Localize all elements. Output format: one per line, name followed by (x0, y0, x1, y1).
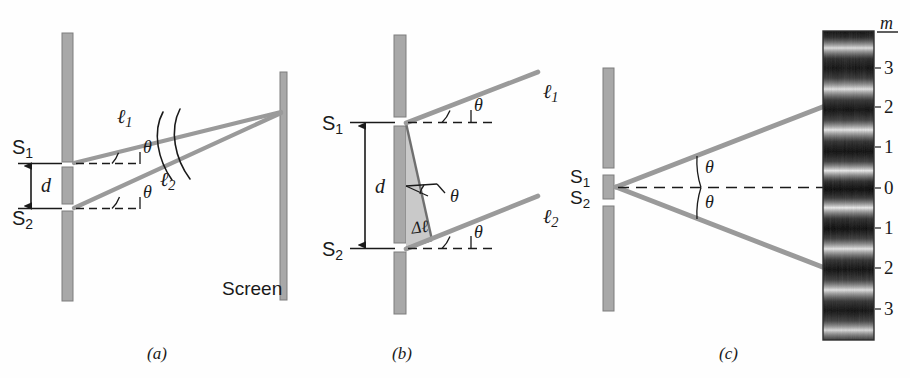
barrier-segment-middle (62, 167, 73, 204)
panel-b-label-s2: S2 (322, 238, 343, 263)
panel-c-rays (616, 106, 825, 268)
panel-b-label-d: d (375, 175, 385, 198)
barrier-segment-upper (394, 35, 406, 117)
ray-l1 (406, 72, 538, 123)
panel-c-label-order-axis: m (880, 13, 893, 34)
barrier-segment-lower (394, 252, 406, 314)
panel-a-label-d: d (41, 174, 51, 197)
panel-c-order-label-1: 2 (884, 96, 894, 118)
panel-b-separation-indicator (350, 123, 395, 249)
panel-c-order-label-0: 3 (884, 57, 894, 79)
panel-a (18, 33, 287, 301)
panel-c-label-theta-lower: θ (705, 192, 714, 213)
panel-b-label-theta-top: θ (474, 95, 483, 116)
barrier-segment-lower (62, 211, 73, 301)
panel-a-label-l1: ℓ1 (117, 105, 133, 131)
panel-a-label-s1: S1 (12, 136, 33, 161)
panel-c (603, 31, 898, 340)
ray-lower (616, 187, 825, 268)
barrier-segment-lower (603, 206, 614, 311)
panel-a-label-s2: S2 (12, 207, 33, 232)
panel-c-label-s2: S2 (570, 187, 590, 211)
panel-c-order-ticks (875, 68, 881, 309)
ray-upper (616, 106, 825, 187)
panel-a-label-screen: Screen (222, 278, 282, 300)
panel-c-label-theta-upper: θ (705, 157, 714, 178)
panel-b-label-s1: S1 (322, 112, 343, 137)
panel-a-rays (74, 112, 281, 208)
panel-a-label-theta-bottom: θ (143, 182, 152, 203)
panel-b-label-theta-mid: θ (450, 186, 459, 207)
barrier-segment-middle (603, 175, 614, 199)
panel-a-barrier (62, 33, 73, 301)
panel-b-label-l2-sub: 2 (551, 214, 558, 230)
panel-a-label-l1-sub: 1 (125, 114, 132, 130)
panel-c-order-label-4: 1 (884, 217, 894, 239)
angle-arc-lower (697, 188, 701, 220)
panel-c-caption: (c) (719, 344, 738, 364)
panel-c-barrier (603, 68, 614, 311)
panel-a-label-s2-sub: 2 (25, 216, 33, 232)
panel-b-label-s1-sub: 1 (335, 121, 343, 137)
barrier-segment-upper (603, 68, 614, 168)
panel-b-label-theta-bottom: θ (474, 222, 483, 243)
panel-b-label-path-difference: Δℓ (410, 217, 430, 239)
barrier-segment-upper (62, 33, 73, 162)
panel-c-fringe-pattern (823, 31, 874, 340)
double-slit-figure: S1 S2 d ℓ1 ℓ2 θ θ Screen (a) S1 S2 d ℓ1 … (0, 0, 910, 378)
barrier-segment-middle (394, 126, 406, 243)
interior-angle-leader (437, 184, 445, 193)
panel-c-order-label-3: 0 (884, 177, 894, 199)
panel-c-label-s2-sub: 2 (583, 196, 590, 211)
panel-a-label-s1-sub: 1 (25, 145, 33, 161)
panel-c-order-label-5: 2 (884, 257, 894, 279)
fringe-image (823, 31, 874, 340)
panel-b-caption: (b) (392, 344, 412, 364)
ray-l2 (74, 113, 281, 208)
panel-a-screen (280, 72, 287, 300)
panel-a-separation-indicator (18, 164, 62, 209)
panel-b-label-s2-sub: 2 (335, 247, 343, 263)
angle-arc-bottom (112, 197, 120, 209)
panel-c-order-label-6: 3 (884, 298, 894, 320)
panel-b-barrier (394, 35, 406, 314)
angle-arc-bottom (442, 237, 450, 249)
panel-a-label-l2-sub: 2 (168, 177, 175, 193)
panel-b-label-l2: ℓ2 (543, 205, 559, 231)
angle-arc-top (442, 111, 450, 123)
angle-arc-upper (697, 156, 701, 188)
panel-a-caption: (a) (147, 344, 167, 364)
panel-a-label-l2: ℓ2 (160, 168, 176, 194)
break-arc-right (174, 109, 190, 179)
panel-c-order-label-2: 1 (884, 136, 894, 158)
panel-b-label-l1: ℓ1 (543, 80, 559, 106)
panel-a-label-theta-top: θ (143, 137, 152, 158)
panel-b-label-l1-sub: 1 (551, 89, 558, 105)
